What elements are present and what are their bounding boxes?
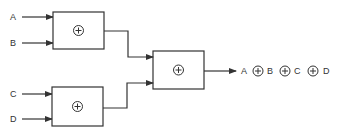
output-expression: A B C D: [241, 66, 330, 76]
xor-symbol-icon: [253, 66, 263, 76]
xor-gate-3: [153, 51, 204, 89]
input-label-b: B: [10, 38, 16, 48]
input-label-c: C: [10, 89, 17, 99]
xor-tree-diagram: A B C D A: [0, 0, 340, 136]
xor-symbol-icon: [308, 66, 318, 76]
output-term-c: C: [294, 66, 301, 76]
connector-gate2-gate3: [103, 83, 153, 108]
xor-gate-2: [52, 87, 103, 126]
input-label-d: D: [10, 114, 17, 124]
connector-gate1-gate3: [104, 31, 153, 57]
xor-symbol-icon: [280, 66, 290, 76]
output-term-d: D: [323, 66, 330, 76]
input-label-a: A: [10, 12, 16, 22]
output-term-b: B: [267, 66, 273, 76]
xor-gate-1: [53, 12, 104, 49]
output-term-a: A: [241, 66, 247, 76]
